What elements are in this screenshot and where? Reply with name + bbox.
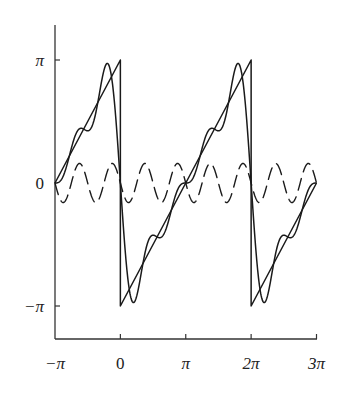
fourier-sawtooth-chart: −π0π2π3ππ0−π: [0, 0, 341, 395]
harmonic-dashed-curve: [55, 163, 317, 202]
x-tick-label: −π: [45, 354, 65, 373]
x-tick-label: π: [181, 354, 190, 373]
y-tick-label: 0: [36, 174, 45, 193]
y-tick-label: −π: [24, 297, 44, 316]
x-tick-label: 2π: [243, 354, 261, 373]
y-tick-label: π: [35, 51, 44, 70]
ticks: −π0π2π3ππ0−π: [24, 51, 325, 373]
x-tick-label: 0: [116, 354, 125, 373]
plot-series: [55, 60, 317, 306]
x-tick-label: 3π: [307, 354, 326, 373]
